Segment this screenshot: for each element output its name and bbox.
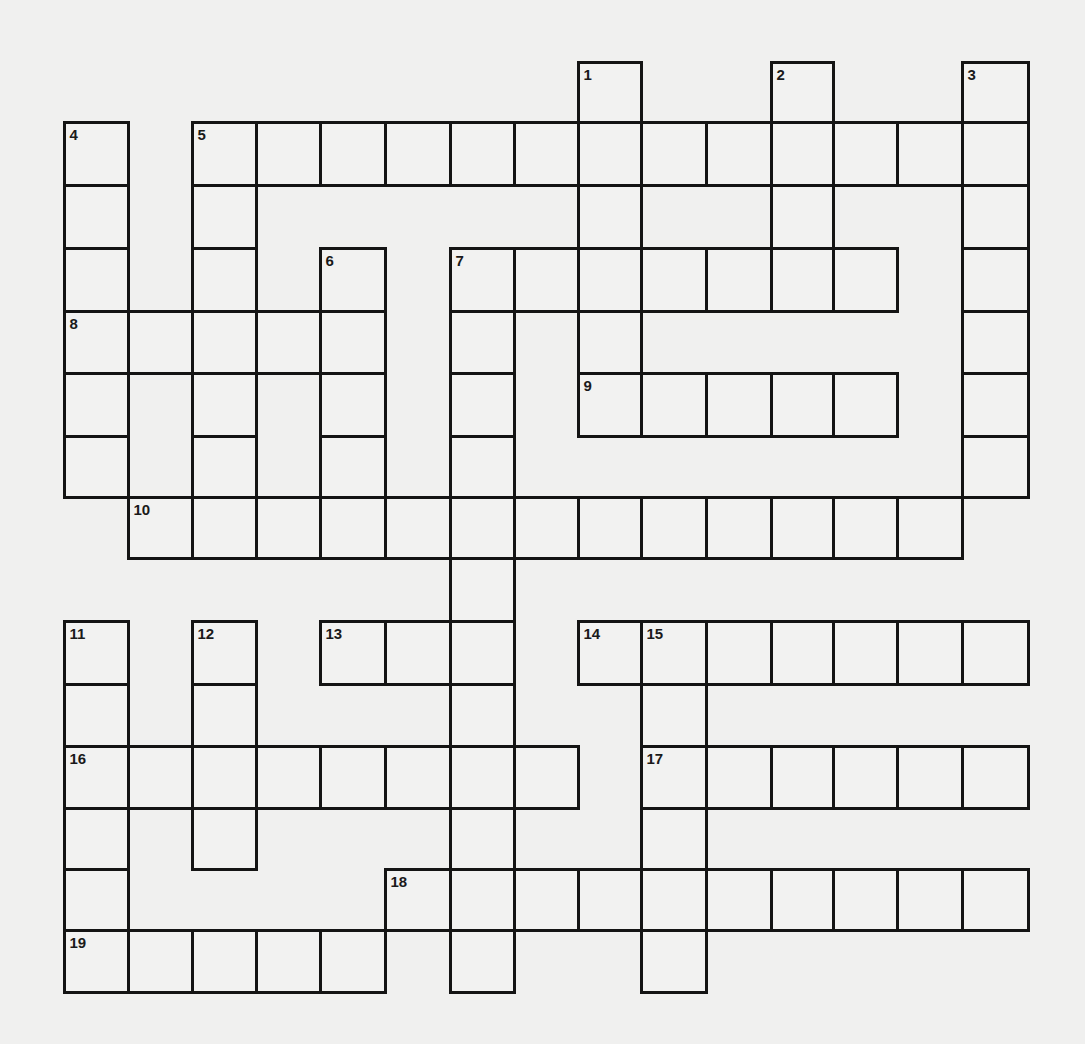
letter-input[interactable] xyxy=(194,438,255,496)
grid-cell-r9-c2[interactable]: 12 xyxy=(191,620,258,686)
grid-cell-r14-c2[interactable] xyxy=(191,929,258,994)
letter-input[interactable] xyxy=(452,250,513,310)
letter-input[interactable] xyxy=(773,375,832,435)
letter-input[interactable] xyxy=(964,250,1027,310)
grid-cell-r11-c12[interactable] xyxy=(832,745,899,810)
letter-input[interactable] xyxy=(387,748,449,807)
grid-cell-r7-c10[interactable] xyxy=(705,496,773,560)
grid-cell-r13-c12[interactable] xyxy=(832,868,899,932)
letter-input[interactable] xyxy=(643,124,705,184)
grid-cell-r5-c2[interactable] xyxy=(191,372,258,438)
letter-input[interactable] xyxy=(452,438,513,496)
grid-cell-r11-c4[interactable] xyxy=(319,745,387,810)
letter-input[interactable] xyxy=(322,499,384,557)
letter-input[interactable] xyxy=(899,623,961,683)
letter-input[interactable] xyxy=(643,932,705,991)
letter-input[interactable] xyxy=(580,499,640,557)
grid-cell-r13-c0[interactable] xyxy=(63,868,130,932)
letter-input[interactable] xyxy=(643,375,705,435)
letter-input[interactable] xyxy=(516,250,577,310)
grid-cell-r3-c2[interactable] xyxy=(191,247,258,313)
letter-input[interactable] xyxy=(516,499,577,557)
letter-input[interactable] xyxy=(66,313,127,372)
grid-cell-r1-c13[interactable] xyxy=(896,121,964,187)
letter-input[interactable] xyxy=(130,499,191,557)
grid-cell-r8-c6[interactable] xyxy=(449,557,516,623)
grid-cell-r11-c14[interactable] xyxy=(961,745,1030,810)
grid-cell-r11-c13[interactable] xyxy=(896,745,964,810)
letter-input[interactable] xyxy=(387,623,449,683)
grid-cell-r5-c6[interactable] xyxy=(449,372,516,438)
grid-cell-r1-c11[interactable] xyxy=(770,121,835,187)
grid-cell-r9-c9[interactable]: 15 xyxy=(640,620,708,686)
grid-cell-r11-c11[interactable] xyxy=(770,745,835,810)
grid-cell-r9-c0[interactable]: 11 xyxy=(63,620,130,686)
letter-input[interactable] xyxy=(708,748,770,807)
grid-cell-r3-c4[interactable]: 6 xyxy=(319,247,387,313)
grid-cell-r14-c6[interactable] xyxy=(449,929,516,994)
grid-cell-r4-c0[interactable]: 8 xyxy=(63,310,130,375)
letter-input[interactable] xyxy=(66,250,127,310)
grid-cell-r11-c9[interactable]: 17 xyxy=(640,745,708,810)
grid-cell-r9-c8[interactable]: 14 xyxy=(577,620,643,686)
letter-input[interactable] xyxy=(835,375,896,435)
grid-cell-r5-c10[interactable] xyxy=(705,372,773,438)
letter-input[interactable] xyxy=(66,187,127,247)
grid-cell-r1-c0[interactable]: 4 xyxy=(63,121,130,187)
letter-input[interactable] xyxy=(130,313,191,372)
grid-cell-r3-c9[interactable] xyxy=(640,247,708,313)
letter-input[interactable] xyxy=(452,499,513,557)
letter-input[interactable] xyxy=(773,499,832,557)
grid-cell-r4-c4[interactable] xyxy=(319,310,387,375)
grid-cell-r5-c14[interactable] xyxy=(961,372,1030,438)
grid-cell-r9-c5[interactable] xyxy=(384,620,452,686)
letter-input[interactable] xyxy=(452,560,513,620)
grid-cell-r7-c6[interactable] xyxy=(449,496,516,560)
letter-input[interactable] xyxy=(964,871,1027,929)
letter-input[interactable] xyxy=(194,748,255,807)
letter-input[interactable] xyxy=(452,124,513,184)
letter-input[interactable] xyxy=(66,623,127,683)
letter-input[interactable] xyxy=(708,250,770,310)
grid-cell-r9-c12[interactable] xyxy=(832,620,899,686)
letter-input[interactable] xyxy=(258,932,319,991)
grid-cell-r12-c0[interactable] xyxy=(63,807,130,871)
letter-input[interactable] xyxy=(773,871,832,929)
grid-cell-r3-c14[interactable] xyxy=(961,247,1030,313)
letter-input[interactable] xyxy=(835,499,896,557)
letter-input[interactable] xyxy=(322,124,384,184)
letter-input[interactable] xyxy=(773,250,832,310)
letter-input[interactable] xyxy=(708,871,770,929)
grid-cell-r3-c10[interactable] xyxy=(705,247,773,313)
letter-input[interactable] xyxy=(964,124,1027,184)
grid-cell-r3-c7[interactable] xyxy=(513,247,580,313)
letter-input[interactable] xyxy=(899,871,961,929)
grid-cell-r1-c2[interactable]: 5 xyxy=(191,121,258,187)
letter-input[interactable] xyxy=(66,686,127,745)
letter-input[interactable] xyxy=(643,686,705,745)
letter-input[interactable] xyxy=(773,748,832,807)
letter-input[interactable] xyxy=(66,810,127,868)
letter-input[interactable] xyxy=(580,623,640,683)
letter-input[interactable] xyxy=(835,871,896,929)
grid-cell-r14-c3[interactable] xyxy=(255,929,322,994)
letter-input[interactable] xyxy=(322,932,384,991)
grid-cell-r4-c2[interactable] xyxy=(191,310,258,375)
grid-cell-r14-c9[interactable] xyxy=(640,929,708,994)
grid-cell-r4-c3[interactable] xyxy=(255,310,322,375)
grid-cell-r5-c4[interactable] xyxy=(319,372,387,438)
letter-input[interactable] xyxy=(452,810,513,868)
letter-input[interactable] xyxy=(835,748,896,807)
grid-cell-r1-c14[interactable] xyxy=(961,121,1030,187)
grid-cell-r5-c8[interactable]: 9 xyxy=(577,372,643,438)
letter-input[interactable] xyxy=(452,686,513,745)
grid-cell-r1-c5[interactable] xyxy=(384,121,452,187)
grid-cell-r13-c9[interactable] xyxy=(640,868,708,932)
letter-input[interactable] xyxy=(580,187,640,247)
letter-input[interactable] xyxy=(258,499,319,557)
grid-cell-r13-c10[interactable] xyxy=(705,868,773,932)
letter-input[interactable] xyxy=(322,250,384,310)
grid-cell-r7-c4[interactable] xyxy=(319,496,387,560)
letter-input[interactable] xyxy=(580,124,640,184)
letter-input[interactable] xyxy=(580,250,640,310)
